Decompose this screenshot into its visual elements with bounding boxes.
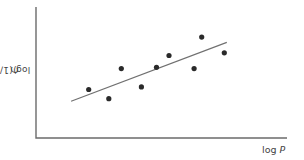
scatter-plot [0, 0, 304, 160]
y-axis-label: log (1/C) [4, 38, 26, 102]
data-point [166, 53, 171, 58]
trend-line [71, 42, 227, 101]
data-point [192, 66, 197, 71]
x-axis-label: log P [262, 144, 285, 155]
data-point [154, 65, 159, 70]
data-points [86, 35, 227, 102]
data-point [139, 84, 144, 89]
data-point [199, 35, 204, 40]
data-point [222, 50, 227, 55]
data-point [119, 66, 124, 71]
data-point [106, 96, 111, 101]
data-point [86, 87, 91, 92]
axes [36, 7, 287, 138]
